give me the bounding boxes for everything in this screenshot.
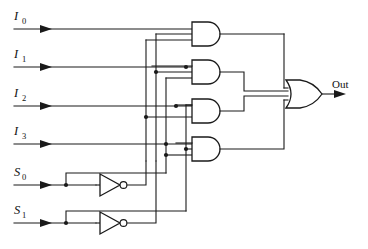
input-line-i2 xyxy=(14,102,192,110)
label-s0: S 0 xyxy=(14,165,26,182)
select-line-s0 xyxy=(14,173,166,189)
circuit-canvas: I 0 I 1 I 2 I 3 S 0 S 1 Out xyxy=(0,0,368,249)
and-gate-2 xyxy=(192,60,288,91)
label-i2-base: I xyxy=(13,86,19,100)
not-gate-s0 xyxy=(96,161,146,196)
label-i3: I 3 xyxy=(13,124,26,141)
logic-circuit-diagram: I 0 I 1 I 2 I 3 S 0 S 1 Out xyxy=(0,0,368,249)
label-i1-sub: 1 xyxy=(22,54,26,64)
label-i2-sub: 2 xyxy=(22,93,26,103)
label-s1: S 1 xyxy=(14,203,26,220)
label-s0-sub: 0 xyxy=(22,172,26,182)
label-i3-sub: 3 xyxy=(22,131,26,141)
label-s1-base: S xyxy=(14,203,21,217)
label-i1: I 1 xyxy=(13,47,26,64)
label-s0-base: S xyxy=(14,165,21,179)
label-out: Out xyxy=(332,78,349,90)
input-line-i0 xyxy=(14,25,192,33)
label-s1-sub: 1 xyxy=(22,210,26,220)
rail-s0 xyxy=(164,78,192,173)
label-i0-base: I xyxy=(13,9,19,23)
and-gate-3 xyxy=(192,96,288,123)
label-i1-base: I xyxy=(13,47,19,61)
label-i0-sub: 0 xyxy=(22,16,26,26)
label-i0: I 0 xyxy=(13,9,26,26)
input-line-i1 xyxy=(14,63,192,71)
not-gate-s1 xyxy=(96,161,156,234)
label-i3-base: I xyxy=(13,124,19,138)
label-i2: I 2 xyxy=(13,86,26,103)
rail-s1 xyxy=(184,105,192,211)
